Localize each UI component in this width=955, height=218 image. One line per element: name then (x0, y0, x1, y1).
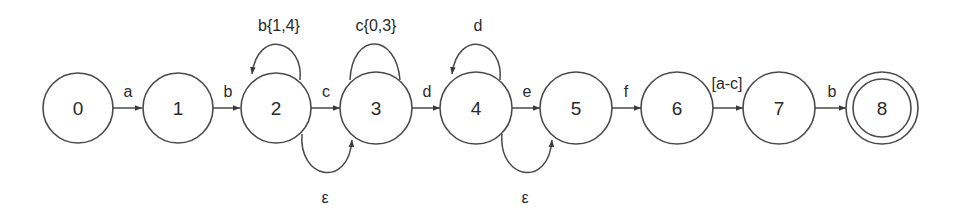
epsilon-arc-4-5 (502, 134, 552, 173)
transition-label: e (523, 83, 532, 100)
state-label: 4 (471, 98, 482, 119)
state-0: 0 (43, 73, 113, 143)
state-label: 5 (571, 98, 582, 119)
transition-label: ε (521, 189, 528, 206)
transition-label: b{1,4} (258, 17, 300, 34)
transition-label: c (322, 83, 330, 100)
state-label: 3 (371, 98, 382, 119)
state-label: 1 (173, 98, 184, 119)
transition-label: a (124, 83, 133, 100)
state-6: 6 (641, 72, 713, 144)
transition-label: b (224, 83, 233, 100)
transition-label: d (423, 83, 432, 100)
transition-label: c{0,3} (356, 17, 398, 34)
transition-label: [a-c] (711, 75, 742, 92)
state-3: 3 (340, 72, 412, 144)
state-8-accepting: 8 (846, 72, 918, 144)
epsilon-arc-2-3 (302, 134, 352, 173)
state-label: 7 (774, 98, 785, 119)
transition-label: f (624, 83, 629, 100)
state-label: 8 (877, 98, 888, 119)
state-label: 2 (271, 98, 282, 119)
transition-label: d (474, 17, 483, 34)
transition-label: ε (321, 189, 328, 206)
state-7: 7 (743, 72, 815, 144)
state-label: 6 (672, 98, 683, 119)
state-4: 4 (440, 72, 512, 144)
state-2: 2 (241, 73, 311, 143)
state-5: 5 (540, 72, 612, 144)
transition-label: b (828, 83, 837, 100)
state-machine-diagram: 0 1 2 3 4 5 6 7 8 a b b{1,4} c ε c{0,3} … (0, 0, 955, 218)
state-label: 0 (73, 98, 84, 119)
state-1: 1 (143, 73, 213, 143)
